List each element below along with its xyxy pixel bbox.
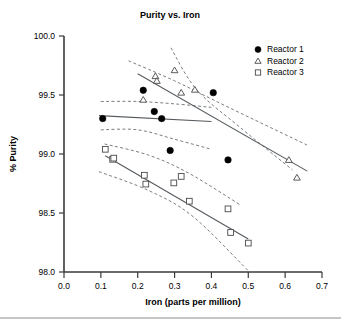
chart-title-group: Purity vs. Iron — [140, 10, 200, 20]
data-point-reactor-3 — [186, 198, 192, 204]
series-1-points — [99, 87, 231, 163]
regression-line-series-1 — [99, 116, 211, 122]
data-point-reactor-1 — [151, 108, 157, 114]
legend-label: Reactor 1 — [267, 44, 304, 54]
x-tick-label: 0.4 — [206, 281, 218, 291]
y-tick-label: 100.0 — [34, 31, 56, 41]
x-tick-label: 0.7 — [316, 281, 328, 291]
series-1-bands — [101, 101, 212, 149]
data-point-reactor-1 — [140, 87, 146, 93]
regression-line-series-2 — [138, 74, 308, 171]
data-point-reactor-3 — [143, 181, 149, 187]
data-point-reactor-2 — [152, 73, 159, 79]
legend-marker-filled-circle — [255, 47, 261, 53]
x-tick-label: 0.3 — [169, 281, 181, 291]
legend-label: Reactor 2 — [267, 56, 304, 66]
y-axis-label: % Purity — [8, 136, 18, 172]
data-point-reactor-3 — [141, 172, 147, 178]
data-point-reactor-2 — [294, 174, 301, 180]
x-tick-label: 0.0 — [58, 281, 70, 291]
chart-figure: Purity vs. Iron 98.098.599.099.5100.0 % … — [0, 0, 341, 324]
x-tick-label: 0.1 — [95, 281, 107, 291]
page-title: Purity vs. Iron — [140, 10, 200, 20]
x-tick-label: 0.5 — [242, 281, 254, 291]
data-point-reactor-3 — [228, 230, 234, 236]
data-point-reactor-1 — [210, 89, 216, 95]
x-tick-label: 0.2 — [132, 281, 144, 291]
plot-area — [99, 48, 307, 271]
x-tick-label: 0.6 — [279, 281, 291, 291]
data-point-reactor-3 — [111, 155, 117, 161]
data-point-reactor-1 — [225, 157, 231, 163]
x-axis-ticks: 0.00.10.20.30.40.50.60.7 — [58, 272, 328, 291]
confidence-band-curve — [105, 144, 241, 205]
data-point-reactor-1 — [158, 115, 164, 121]
regression-line-series-3 — [105, 156, 248, 239]
data-point-reactor-3 — [171, 180, 177, 186]
data-point-reactor-1 — [167, 147, 173, 153]
x-axis: 0.00.10.20.30.40.50.60.7 Iron (parts per… — [58, 272, 328, 307]
y-tick-label: 98.0 — [38, 267, 55, 277]
y-tick-label: 99.0 — [38, 149, 55, 159]
confidence-band-curve — [101, 129, 212, 149]
y-axis: 98.098.599.099.5100.0 % Purity — [8, 31, 64, 277]
data-point-reactor-2 — [178, 89, 185, 95]
data-point-reactor-3 — [102, 146, 108, 152]
data-point-reactor-3 — [245, 240, 251, 246]
chart-legend: Reactor 1Reactor 2Reactor 3 — [255, 44, 304, 77]
y-axis-ticks: 98.098.599.099.5100.0 — [34, 31, 64, 277]
x-axis-label: Iron (parts per million) — [145, 297, 241, 307]
data-point-reactor-1 — [99, 115, 105, 121]
series-2-points — [140, 67, 300, 180]
data-point-reactor-2 — [171, 67, 178, 73]
legend-marker-open-square — [255, 70, 260, 75]
data-point-reactor-3 — [225, 206, 231, 212]
y-tick-label: 98.5 — [38, 208, 55, 218]
confidence-band-curve — [99, 172, 248, 271]
data-point-reactor-2 — [140, 96, 147, 102]
legend-label: Reactor 3 — [267, 67, 304, 77]
data-point-reactor-3 — [178, 174, 184, 180]
y-tick-label: 99.5 — [38, 90, 55, 100]
purity-vs-iron-scatter-plot: Purity vs. Iron 98.098.599.099.5100.0 % … — [0, 0, 341, 324]
legend-marker-open-triangle — [255, 58, 261, 63]
